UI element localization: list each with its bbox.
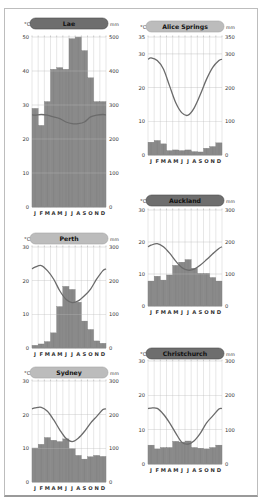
month-label: J [33, 210, 36, 217]
temp-tick-label: 20 [138, 392, 145, 398]
temp-tick-label: 30 [138, 207, 145, 213]
chart-title: Perth [59, 235, 78, 242]
month-label: O [204, 309, 209, 315]
temp-tick-label: 10 [138, 427, 145, 433]
month-label: A [168, 158, 172, 164]
month-label: M [173, 467, 178, 473]
month-label: J [33, 485, 36, 492]
mm-unit-label: mm [110, 22, 119, 27]
temp-tick-label: 10 [22, 170, 29, 176]
month-label: J [70, 210, 73, 217]
month-label: D [101, 210, 106, 216]
month-label: J [70, 351, 73, 358]
month-label: M [45, 485, 50, 491]
precip-tick-label: 0 [109, 479, 112, 485]
climograph-sydney: °CmmSydney00101002020030300JFMAMJJASOND [18, 364, 122, 500]
month-label: M [57, 485, 62, 491]
mm-unit-label: mm [226, 199, 235, 204]
month-label: F [155, 158, 159, 164]
month-label: A [192, 309, 196, 315]
chart-title: Christchurch [163, 350, 207, 357]
month-label: A [76, 485, 80, 491]
month-label: D [217, 309, 222, 315]
month-label: A [168, 467, 172, 473]
precip-tick-label: 100 [225, 118, 235, 124]
precip-tick-label: 0 [109, 345, 112, 351]
month-label: M [173, 309, 178, 315]
month-label: F [155, 309, 159, 315]
month-label: M [45, 351, 50, 357]
precip-tick-label: 200 [109, 136, 119, 142]
month-label: S [199, 158, 203, 164]
month-label: J [149, 467, 152, 474]
month-label: M [161, 309, 166, 315]
precip-tick-label: 0 [225, 461, 228, 467]
temp-tick-label: 0 [26, 204, 29, 210]
temp-tick-label: 0 [142, 303, 145, 309]
month-label: J [64, 351, 67, 358]
month-label: J [70, 485, 73, 492]
temp-tick-label: 10 [138, 271, 145, 277]
month-label: A [76, 210, 80, 216]
month-label: F [39, 485, 43, 491]
month-label: N [95, 485, 99, 491]
climograph-lae: °CmmLae001010020200303004040050500JFMAMJ… [18, 16, 122, 225]
precip-tick-label: 300 [109, 378, 119, 384]
precip-tick-label: 300 [225, 207, 235, 213]
temp-tick-label: 0 [26, 345, 29, 351]
precip-tick-label: 100 [109, 311, 119, 317]
precip-tick-label: 100 [225, 271, 235, 277]
precip-tick-label: 100 [109, 445, 119, 451]
mm-unit-label: mm [226, 25, 235, 30]
month-label: J [186, 158, 189, 165]
precip-tick-label: 0 [109, 204, 112, 210]
temp-tick-label: 0 [142, 152, 145, 158]
temp-tick-label: 10 [22, 445, 29, 451]
temp-tick-label: 30 [22, 378, 29, 384]
month-label: J [149, 158, 152, 165]
month-label: D [217, 467, 222, 473]
temp-tick-label: 20 [22, 136, 29, 142]
precip-tick-label: 400 [109, 68, 119, 74]
month-label: M [161, 158, 166, 164]
temp-tick-label: 20 [22, 278, 29, 284]
temp-tick-label: 0 [26, 479, 29, 485]
precip-tick-label: 0 [225, 152, 228, 158]
month-label: D [101, 485, 106, 491]
month-label: N [95, 351, 99, 357]
month-label: J [64, 210, 67, 217]
month-label: O [88, 351, 93, 357]
month-label: N [211, 467, 215, 473]
temp-tick-label: 30 [22, 244, 29, 250]
temp-tick-label: 40 [22, 68, 29, 74]
month-label: J [149, 309, 152, 316]
month-label: S [83, 485, 87, 491]
month-label: O [88, 210, 93, 216]
month-label: O [204, 158, 209, 164]
month-label: D [217, 158, 222, 164]
climograph-perth: °CmmPerth00101002020030300JFMAMJJASOND [18, 230, 122, 366]
precip-tick-label: 300 [225, 51, 235, 57]
precip-tick-label: 200 [109, 412, 119, 418]
month-label: J [186, 467, 189, 474]
month-label: F [155, 467, 159, 473]
precip-tick-label: 100 [225, 427, 235, 433]
month-label: J [180, 158, 183, 165]
month-label: M [161, 467, 166, 473]
month-label: A [52, 351, 56, 357]
precip-tick-label: 500 [109, 34, 119, 40]
month-label: A [192, 158, 196, 164]
precip-tick-label: 200 [109, 278, 119, 284]
mm-unit-label: mm [110, 371, 119, 376]
temp-tick-label: 30 [22, 102, 29, 108]
temp-tick-label: 30 [138, 358, 145, 364]
temp-tick-label: 10 [22, 311, 29, 317]
precip-tick-label: 200 [225, 239, 235, 245]
temp-tick-label: 30 [138, 51, 145, 57]
month-label: S [199, 467, 203, 473]
month-label: N [95, 210, 99, 216]
chart-title: Auckland [169, 197, 201, 204]
chart-title: Alice Springs [162, 23, 208, 31]
precip-tick-label: 200 [225, 85, 235, 91]
month-label: A [52, 485, 56, 491]
